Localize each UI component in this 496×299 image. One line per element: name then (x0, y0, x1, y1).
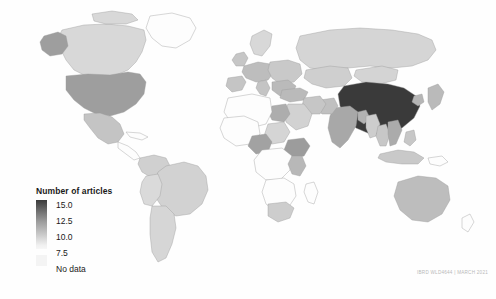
country-new-zealand (462, 214, 474, 232)
country-japan (428, 84, 444, 110)
country-canada (58, 24, 146, 78)
country-central-africa (254, 148, 292, 180)
legend-tick-15: 15.0 (56, 197, 156, 213)
country-mongolia (354, 66, 398, 84)
country-kazakhstan (304, 66, 352, 88)
map-attribution: IBRD WLD4644 | MARCH 2021 (417, 270, 488, 275)
country-italy (256, 80, 270, 96)
country-united-states (66, 72, 146, 116)
country-philippines (404, 130, 416, 146)
legend-title: Number of articles (36, 186, 166, 196)
country-central-america (118, 142, 140, 160)
country-east-africa (288, 156, 306, 176)
country-madagascar (304, 182, 318, 204)
legend-tick-10: 10.0 (56, 229, 156, 245)
country-scandinavia (250, 30, 272, 56)
country-australia (394, 176, 450, 222)
country-papua-new-guinea (428, 156, 448, 166)
country-indonesia (378, 150, 424, 164)
country-south-africa (268, 202, 294, 222)
map-legend: Number of articles 15.0 12.5 10.0 7.5 No… (36, 186, 166, 272)
country-spain (226, 76, 246, 92)
country-mexico (84, 113, 124, 144)
legend-color-ramp (36, 200, 47, 249)
legend-labels: 15.0 12.5 10.0 7.5 No data (56, 197, 156, 277)
country-russia (296, 28, 436, 70)
legend-tick-7-5: 7.5 (56, 245, 156, 261)
country-united-kingdom (232, 52, 248, 66)
country-cuba (126, 132, 148, 140)
country-greenland (146, 13, 196, 48)
legend-no-data-label: No data (56, 261, 156, 277)
world-map-figure: Number of articles 15.0 12.5 10.0 7.5 No… (0, 0, 496, 299)
legend-no-data-swatch (36, 255, 47, 266)
legend-body: 15.0 12.5 10.0 7.5 No data (36, 200, 166, 272)
country-canada-arctic (92, 11, 138, 24)
legend-tick-12-5: 12.5 (56, 213, 156, 229)
